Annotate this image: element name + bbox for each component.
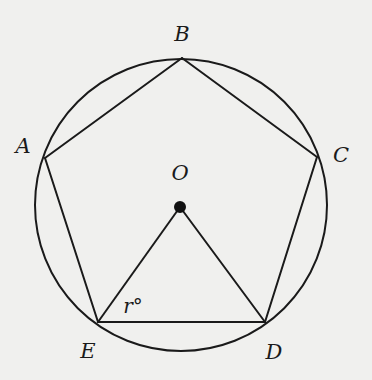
pentagon-diagram: A B C D E O r° bbox=[0, 0, 372, 380]
segments bbox=[45, 58, 317, 322]
angle-label-r: r° bbox=[123, 296, 143, 316]
vertex-label-b: B bbox=[174, 24, 189, 45]
vertex-label-c: C bbox=[333, 145, 349, 166]
vertex-label-d: D bbox=[266, 342, 283, 363]
diagram-canvas bbox=[0, 0, 372, 380]
segment-ea bbox=[45, 158, 98, 322]
segment-bc bbox=[182, 58, 317, 157]
vertex-label-a: A bbox=[15, 136, 30, 157]
vertex-label-e: E bbox=[80, 341, 95, 362]
segment-cd bbox=[265, 157, 317, 322]
segment-ab bbox=[45, 58, 182, 158]
center-point-o bbox=[174, 201, 186, 213]
segment-od bbox=[180, 207, 265, 322]
center-label-o: O bbox=[171, 163, 188, 184]
